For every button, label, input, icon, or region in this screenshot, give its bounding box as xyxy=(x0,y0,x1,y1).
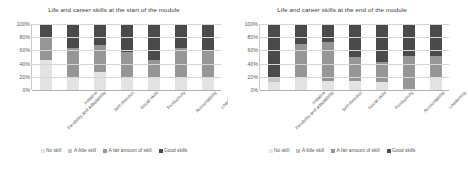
bar-segment[interactable] xyxy=(148,77,160,90)
plot-canvas-start xyxy=(31,24,221,90)
bar-segment[interactable] xyxy=(67,77,79,90)
legend-swatch-icon xyxy=(331,149,335,153)
legend-swatch-icon xyxy=(68,149,72,153)
category-label: Flexibility and adaptability xyxy=(66,90,107,131)
category-label: Productivity xyxy=(166,90,186,110)
plot-canvas-end xyxy=(259,24,449,90)
legend-item[interactable]: A fair amount of skill xyxy=(331,148,379,153)
bar-segment[interactable] xyxy=(403,56,415,89)
stacked-bar[interactable] xyxy=(175,24,187,90)
y-tick-label: 100% xyxy=(236,21,258,27)
legend-swatch-icon xyxy=(296,149,300,153)
bar-segment[interactable] xyxy=(40,24,52,37)
stacked-bar[interactable] xyxy=(202,24,214,90)
legend-swatch-icon xyxy=(103,149,107,153)
category-label: Self-direction xyxy=(113,90,135,112)
legend-label: A little skill xyxy=(302,148,324,153)
legend-label: A fair amount of skill xyxy=(109,148,152,153)
bar-segment[interactable] xyxy=(40,60,52,90)
bar-segment[interactable] xyxy=(121,52,133,78)
y-tick-label: 100% xyxy=(8,21,30,27)
legend-item[interactable]: No skill xyxy=(41,148,62,153)
legend-label: Good skills xyxy=(392,148,415,153)
y-tick-label: 0% xyxy=(8,87,30,93)
chart-panel-start: Life and career skills at the start of t… xyxy=(0,0,228,174)
y-tick-label: 0% xyxy=(236,87,258,93)
legend-item[interactable]: A little skill xyxy=(68,148,96,153)
legend-item[interactable]: A fair amount of skill xyxy=(103,148,151,153)
y-axis-start: 0%20%40%60%80%100% xyxy=(8,24,30,90)
legend-item[interactable]: A little skill xyxy=(296,148,324,153)
stacked-bar[interactable] xyxy=(430,24,442,90)
bar-segment[interactable] xyxy=(322,24,334,42)
bar-segment[interactable] xyxy=(349,24,361,57)
stacked-bar[interactable] xyxy=(94,24,106,90)
legend-label: A fair amount of skill xyxy=(337,148,380,153)
bar-segment[interactable] xyxy=(430,56,442,77)
gridline xyxy=(260,24,449,25)
stacked-bar[interactable] xyxy=(295,24,307,90)
gridline xyxy=(32,77,221,78)
legend-item[interactable]: Good skills xyxy=(159,148,188,153)
bar-segment[interactable] xyxy=(349,81,361,90)
y-tick-label: 40% xyxy=(236,61,258,67)
gridline xyxy=(32,24,221,25)
y-axis-end: 0%20%40%60%80%100% xyxy=(236,24,258,90)
category-label: Accountability xyxy=(423,90,447,114)
bar-segment[interactable] xyxy=(121,78,133,90)
gridline xyxy=(260,77,449,78)
category-label: Social skills xyxy=(367,90,387,110)
bar-segment[interactable] xyxy=(430,77,442,90)
category-labels-start: Flexibility and adaptabilityInitiativeSe… xyxy=(31,90,221,142)
bar-segment[interactable] xyxy=(322,42,334,81)
gridline xyxy=(260,37,449,38)
legend-swatch-icon xyxy=(159,149,163,153)
bar-segment[interactable] xyxy=(94,24,106,45)
legend-label: No skill xyxy=(46,148,61,153)
bar-segment[interactable] xyxy=(295,78,307,90)
bar-segment[interactable] xyxy=(376,62,388,82)
stacked-bar[interactable] xyxy=(403,24,415,90)
bar-segment[interactable] xyxy=(322,81,334,90)
stacked-bar[interactable] xyxy=(349,24,361,90)
legend-end: No skillA little skillA fair amount of s… xyxy=(228,148,456,153)
y-tick-label: 20% xyxy=(8,74,30,80)
bar-segment[interactable] xyxy=(40,37,52,60)
y-tick-label: 60% xyxy=(8,47,30,53)
bar-segment[interactable] xyxy=(175,24,187,48)
stacked-bar[interactable] xyxy=(268,24,280,90)
bar-segment[interactable] xyxy=(376,82,388,90)
stacked-bar[interactable] xyxy=(121,24,133,90)
bar-segment[interactable] xyxy=(202,78,214,90)
stacked-bar[interactable] xyxy=(67,24,79,90)
legend-item[interactable]: No skill xyxy=(269,148,290,153)
legend-swatch-icon xyxy=(41,149,45,153)
bar-segment[interactable] xyxy=(94,72,106,90)
legend-label: A little skill xyxy=(74,148,96,153)
bar-group-start xyxy=(32,24,221,90)
chart-panel-end: Life and career skills at the end of the… xyxy=(228,0,456,174)
stacked-bar[interactable] xyxy=(322,24,334,90)
category-label: Social skills xyxy=(139,90,159,110)
bar-segment[interactable] xyxy=(295,24,307,44)
stacked-bar[interactable] xyxy=(148,24,160,90)
gridline xyxy=(260,50,449,51)
bar-segment[interactable] xyxy=(148,24,160,60)
bar-segment[interactable] xyxy=(268,82,280,90)
bar-segment[interactable] xyxy=(94,45,106,72)
category-label: Self-direction xyxy=(341,90,363,112)
chart-title-start: Life and career skills at the start of t… xyxy=(0,6,228,14)
legend-item[interactable]: Good skills xyxy=(387,148,416,153)
stacked-bar[interactable] xyxy=(376,24,388,90)
legend-label: Good skills xyxy=(164,148,187,153)
bar-segment[interactable] xyxy=(148,60,160,77)
legend-start: No skillA little skillA fair amount of s… xyxy=(0,148,228,153)
stacked-bar[interactable] xyxy=(40,24,52,90)
chart-title-end: Life and career skills at the end of the… xyxy=(228,6,456,14)
bar-segment[interactable] xyxy=(295,44,307,78)
bar-group-end xyxy=(260,24,449,90)
bar-segment[interactable] xyxy=(376,24,388,62)
bar-segment[interactable] xyxy=(175,78,187,90)
y-tick-label: 60% xyxy=(236,47,258,53)
